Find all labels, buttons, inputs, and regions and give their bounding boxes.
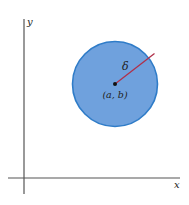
y-axis-label: y	[26, 16, 33, 27]
center-label: (a, b)	[102, 89, 127, 100]
x-axis-label: x	[174, 179, 180, 190]
center-point	[113, 82, 117, 86]
neighborhood-diagram: y x δ (a, b)	[0, 0, 189, 205]
radius-label: δ	[122, 60, 129, 73]
